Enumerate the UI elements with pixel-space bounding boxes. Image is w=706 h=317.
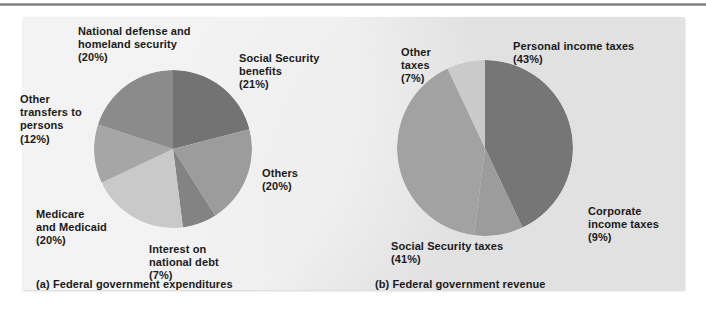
pie-slices bbox=[397, 60, 573, 236]
label-personal-income-taxes: Personal income taxes (43%) bbox=[513, 40, 634, 66]
pie-chart-revenue bbox=[397, 60, 573, 236]
label-other-transfers: Other transfers to persons (12%) bbox=[20, 93, 82, 146]
label-medicare-medicaid: Medicare and Medicaid (20%) bbox=[36, 208, 107, 248]
pie-slices bbox=[94, 70, 252, 228]
label-others: Others (20%) bbox=[262, 167, 298, 193]
label-national-defense: National defense and homeland security (… bbox=[78, 25, 191, 65]
label-interest-national-debt: Interest on national debt (7%) bbox=[149, 243, 219, 283]
top-divider-rule bbox=[0, 3, 706, 6]
caption-right-chart: (b) Federal government revenue bbox=[375, 278, 546, 290]
pie-chart-expenditures bbox=[94, 70, 252, 228]
label-social-security-taxes: Social Security taxes (41%) bbox=[391, 240, 503, 266]
label-corporate-income-taxes: Corporate income taxes (9%) bbox=[588, 205, 659, 245]
figure-root: National defense and homeland security (… bbox=[0, 0, 706, 317]
label-other-taxes: Other taxes (7%) bbox=[401, 46, 431, 86]
caption-left-chart: (a) Federal government expenditures bbox=[36, 278, 233, 290]
label-social-security-benefits: Social Security benefits (21%) bbox=[239, 52, 319, 92]
